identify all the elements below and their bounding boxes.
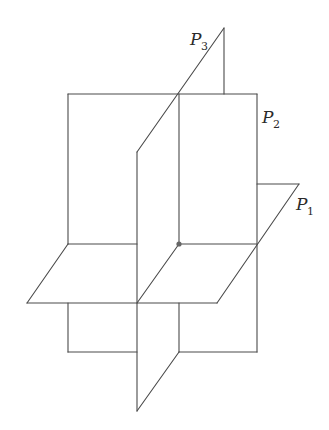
three-planes-diagram: P 3 P 2 P 1 xyxy=(0,0,329,430)
svg-text:3: 3 xyxy=(201,40,208,53)
intersection-point xyxy=(176,241,181,246)
plane-p2 xyxy=(68,94,257,352)
label-p2: P 2 xyxy=(261,107,280,131)
label-p3: P 3 xyxy=(189,29,208,53)
svg-text:1: 1 xyxy=(307,205,314,218)
plane-p3 xyxy=(137,28,224,411)
svg-text:2: 2 xyxy=(273,118,280,131)
label-p1: P 1 xyxy=(295,194,314,218)
